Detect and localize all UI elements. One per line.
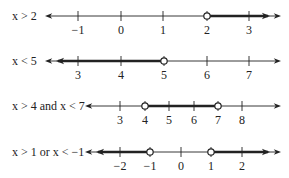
number-line-2: x < 534567 [12,54,281,82]
number-line-diagram: x > 2−10123x < 534567x > 4 and x < 73456… [0,0,289,178]
tick-label: 7 [215,113,221,127]
tick-label: 0 [118,23,124,37]
tick-label: 3 [75,68,81,82]
tick-label: 6 [191,113,197,127]
tick-label: −1 [72,23,85,37]
tick-label: 6 [204,68,210,82]
tick-label: −2 [114,159,127,173]
open-circle-endpoint [208,149,214,155]
tick-label: 5 [161,68,167,82]
open-circle-endpoint [147,149,153,155]
open-circle-endpoint [215,103,221,109]
tick-label: 5 [166,113,172,127]
tick-label: 2 [204,23,210,37]
tick-label: 8 [239,113,245,127]
tick-label: 2 [239,159,245,173]
open-circle-endpoint [142,103,148,109]
tick-label: 3 [246,23,252,37]
number-line-4: x > 1 or x < −1−2−1012 [12,145,281,173]
open-circle-endpoint [204,13,210,19]
tick-label: 1 [160,23,166,37]
number-line-1: x > 2−10123 [12,9,281,37]
inequality-label: x < 5 [12,54,37,68]
tick-label: 7 [246,68,252,82]
inequality-label: x > 2 [12,9,37,23]
tick-label: 4 [118,68,124,82]
inequality-label: x > 1 or x < −1 [12,145,84,159]
tick-label: 3 [117,113,123,127]
tick-label: 4 [142,113,148,127]
number-line-3: x > 4 and x < 7345678 [12,99,281,127]
tick-label: 1 [208,159,214,173]
tick-label: 0 [178,159,184,173]
open-circle-endpoint [161,58,167,64]
tick-label: −1 [144,159,157,173]
inequality-label: x > 4 and x < 7 [12,99,85,113]
